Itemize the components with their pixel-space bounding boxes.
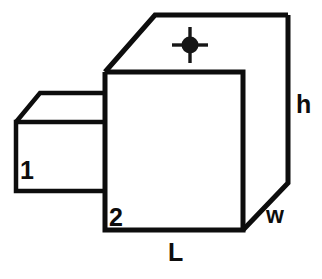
label-width: w [266, 204, 284, 227]
label-length: L [168, 240, 183, 265]
main-block-front-face [105, 72, 243, 230]
label-main-block: 2 [109, 205, 123, 230]
box-diagram-svg [0, 0, 322, 279]
diagram-canvas: 1 2 L w h [0, 0, 322, 279]
label-height: h [296, 92, 311, 117]
label-small-block: 1 [20, 158, 34, 183]
